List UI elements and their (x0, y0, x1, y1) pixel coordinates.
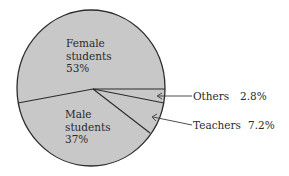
male-label-line2: students (65, 121, 111, 134)
male-label-pct: 37% (65, 133, 111, 146)
female-label-line2: students (66, 50, 112, 63)
others-pct: 2.8% (240, 90, 267, 102)
pie-chart (0, 0, 289, 176)
others-label: Others (193, 90, 229, 102)
female-label-line1: Female (66, 37, 112, 50)
teachers-pct: 7.2% (248, 119, 275, 131)
female-label-pct: 53% (66, 62, 112, 75)
male-students-label: Male students 37% (65, 108, 111, 146)
female-students-label: Female students 53% (66, 37, 112, 75)
teachers-label: Teachers (193, 119, 241, 131)
male-label-line1: Male (65, 108, 111, 121)
